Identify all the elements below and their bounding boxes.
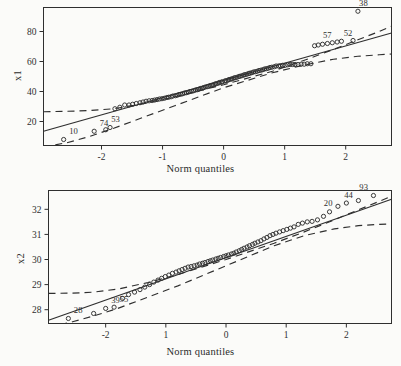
x-axis-title-bottom: Norm quantiles	[0, 346, 401, 357]
y-tick-label: 20	[27, 117, 37, 127]
outlier-label: 39	[111, 295, 120, 305]
x-tick-label: -2	[98, 152, 106, 162]
x-tick-label: 2	[344, 330, 349, 340]
confidence-band-upper	[49, 196, 392, 293]
data-points	[62, 0, 376, 142]
x-tick-label: 0	[221, 152, 226, 162]
y-tick-label: 40	[27, 87, 37, 97]
data-point	[315, 218, 319, 222]
outlier-label: 53	[111, 114, 120, 124]
data-point	[132, 290, 136, 294]
data-point	[62, 137, 66, 141]
outlier-label: 38	[359, 0, 368, 8]
outlier-label: 52	[344, 28, 353, 38]
data-point	[92, 129, 96, 133]
figure-container: -2-101220406080107453575238 x1 Norm quan…	[0, 0, 401, 366]
data-point	[325, 41, 329, 45]
x-tick-label: -1	[159, 152, 167, 162]
outlier-label: 20	[324, 198, 333, 208]
data-point	[321, 214, 325, 218]
data-point	[310, 219, 314, 223]
data-point	[339, 39, 343, 43]
qq-plot-svg-x1: -2-101220406080107453575238	[0, 0, 401, 183]
data-point	[351, 38, 355, 42]
outlier-label: 55	[120, 294, 129, 304]
data-point	[92, 311, 96, 315]
data-point	[66, 316, 70, 320]
data-point	[108, 125, 112, 129]
outlier-label: 93	[359, 183, 368, 192]
y-tick-label: 32	[32, 205, 42, 215]
y-axis-title-x1: x1	[12, 56, 23, 96]
data-point	[104, 306, 108, 310]
y-tick-label: 80	[27, 27, 37, 37]
x-tick-label: 2	[343, 152, 348, 162]
x-tick-label: -2	[102, 330, 110, 340]
data-point	[371, 193, 375, 197]
data-point	[123, 103, 127, 107]
qq-plot-panel-x1: -2-101220406080107453575238	[0, 0, 401, 183]
x-tick-label: 1	[282, 152, 287, 162]
confidence-band-lower	[49, 224, 392, 327]
data-point	[327, 210, 331, 214]
x-tick-label: 0	[224, 330, 229, 340]
data-point	[356, 9, 360, 13]
confidence-band-upper	[44, 26, 392, 112]
data-point	[296, 222, 300, 226]
x-tick-label: 1	[284, 330, 289, 340]
y-axis-title-x2: x2	[15, 239, 26, 279]
y-tick-label: 28	[32, 305, 42, 315]
data-point	[305, 220, 309, 224]
data-point	[320, 42, 324, 46]
data-point	[112, 305, 116, 309]
data-point	[335, 40, 339, 44]
outlier-label: 10	[69, 126, 78, 136]
outlier-label: 44	[344, 190, 353, 200]
y-tick-label: 60	[27, 57, 37, 67]
x-axis-title-top: Norm quantiles	[0, 163, 401, 174]
outlier-label: 74	[100, 118, 109, 128]
data-point	[356, 198, 360, 202]
data-point	[344, 201, 348, 205]
x-tick-label: 1	[163, 330, 168, 340]
data-point	[336, 204, 340, 208]
data-point	[330, 41, 334, 45]
y-tick-label: 31	[32, 230, 42, 240]
qq-plot-svg-x2: -210122829303132283955204493	[0, 183, 401, 366]
outlier-label: 28	[74, 305, 83, 315]
data-point	[371, 0, 375, 2]
plot-area	[49, 193, 392, 327]
y-tick-label: 29	[32, 280, 42, 290]
qq-plot-panel-x2: -210122829303132283955204493	[0, 183, 401, 366]
plot-area	[44, 0, 392, 147]
y-tick-label: 30	[32, 255, 42, 265]
plot-frame	[44, 8, 392, 146]
outlier-label: 57	[323, 30, 332, 40]
data-point	[300, 221, 304, 225]
